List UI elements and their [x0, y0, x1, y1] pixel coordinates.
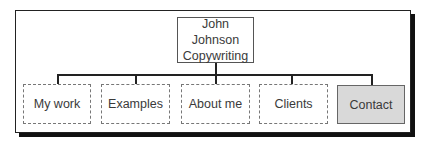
node-contact: Contact [337, 85, 405, 124]
node-label: Contact [349, 98, 392, 112]
node-examples: Examples [101, 84, 170, 124]
root-node: John Johnson Copywriting [177, 17, 254, 63]
node-label: My work [34, 97, 81, 111]
connector-contact [371, 74, 373, 85]
node-clients: Clients [259, 84, 328, 124]
root-title: John Johnson [178, 16, 253, 48]
node-label: Examples [108, 97, 163, 111]
root-subtitle: Copywriting [183, 48, 248, 64]
node-my-work: My work [23, 84, 91, 124]
node-label: Clients [274, 97, 312, 111]
node-about-me: About me [181, 84, 250, 124]
connector-my-work [57, 74, 59, 84]
connector-examples [135, 74, 137, 84]
node-label: About me [189, 97, 243, 111]
connector-clients [291, 74, 293, 84]
connector-about-me [215, 74, 217, 84]
